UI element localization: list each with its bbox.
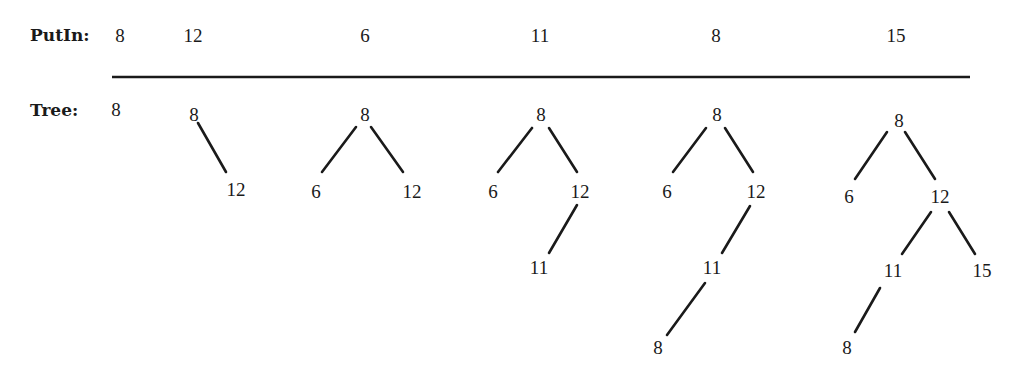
tree-edge: [902, 212, 931, 254]
tree-edge: [725, 128, 753, 172]
tree-edge: [667, 283, 705, 335]
tree-node: 11: [703, 257, 721, 278]
tree-node: 6: [311, 181, 321, 202]
insert-value: 6: [360, 25, 370, 46]
tree-snapshots: 881286128612118612118861211158: [111, 99, 991, 358]
tree-node: 8: [189, 104, 199, 125]
tree-node: 6: [844, 186, 854, 207]
tree-node: 12: [571, 181, 590, 202]
insert-value: 8: [115, 25, 125, 46]
tree-node: 8: [842, 337, 852, 358]
tree-step-4: 861211: [488, 104, 589, 278]
tree-step-1: 8: [111, 99, 121, 120]
tree-edge: [905, 132, 935, 179]
bst-insertion-diagram: PutIn: Tree: 812611815 88128612861211861…: [0, 0, 1020, 368]
tree-node: 8: [536, 104, 546, 125]
putin-label: PutIn:: [30, 25, 90, 45]
tree-step-3: 8612: [311, 104, 421, 202]
tree-step-5: 8612118: [653, 104, 765, 358]
tree-edge: [949, 212, 975, 254]
tree-node: 12: [747, 181, 766, 202]
tree-node: 8: [653, 337, 663, 358]
tree-node: 11: [530, 257, 548, 278]
tree-node: 8: [111, 99, 121, 120]
tree-step-2: 812: [189, 104, 245, 200]
diagram-canvas: PutIn: Tree: 812611815 88128612861211861…: [0, 0, 1020, 368]
tree-label: Tree:: [30, 100, 78, 120]
tree-edge: [549, 128, 577, 172]
tree-node: 6: [662, 181, 672, 202]
tree-edge: [855, 288, 880, 332]
tree-node: 6: [488, 181, 498, 202]
tree-node: 8: [894, 110, 904, 131]
tree-node: 12: [227, 179, 246, 200]
tree-edge: [855, 132, 887, 179]
tree-node: 12: [403, 181, 422, 202]
tree-node: 11: [884, 260, 902, 281]
tree-node: 8: [712, 104, 722, 125]
tree-edge: [371, 127, 403, 172]
insert-value: 8: [711, 25, 721, 46]
tree-edge: [722, 206, 750, 253]
tree-edge: [673, 128, 706, 172]
tree-node: 12: [931, 186, 950, 207]
insert-value: 11: [531, 25, 549, 46]
tree-node: 8: [360, 104, 370, 125]
insert-value: 12: [184, 25, 203, 46]
tree-step-6: 861211158: [842, 110, 991, 358]
tree-edge: [498, 128, 532, 172]
insert-sequence: 812611815: [115, 25, 905, 46]
tree-edge: [322, 127, 356, 172]
tree-node: 15: [973, 260, 992, 281]
tree-edge: [198, 123, 226, 172]
tree-edge: [549, 205, 577, 253]
insert-value: 15: [887, 25, 906, 46]
